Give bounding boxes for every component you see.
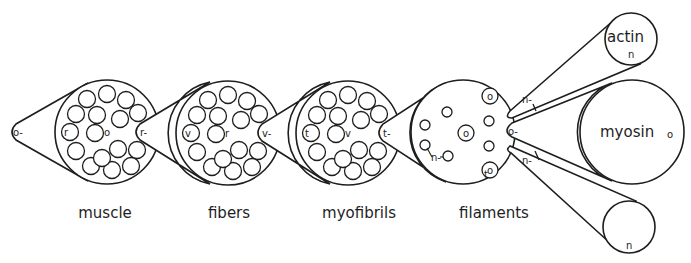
actin-sub-label: n <box>628 49 634 60</box>
thin-filament <box>442 107 452 117</box>
sub-bundle-circle <box>189 107 206 124</box>
thin-filament <box>443 151 453 161</box>
thick-filament-label: o <box>487 91 493 102</box>
sub-bundle-circle <box>309 144 326 161</box>
captions: muscle fibers myofibrils filaments <box>78 204 529 222</box>
sub-bundle-circle <box>359 93 376 110</box>
sub-bundle-circle <box>239 93 256 110</box>
lower-filament-sub-label: n <box>626 240 632 251</box>
sub-bundle-circle <box>371 106 388 123</box>
filaments-edge-label: t <box>484 169 488 180</box>
sub-bundle-circle <box>89 107 106 124</box>
actin-cross-section: actin n <box>605 13 657 65</box>
sub-bundle-circle <box>200 92 217 109</box>
actin-label: actin <box>607 28 644 46</box>
myofibrils-center-label: v <box>345 128 351 139</box>
sub-bundle-circle <box>79 91 96 108</box>
sub-bundle-circle <box>370 143 387 160</box>
sub-bundle-circle <box>87 125 104 142</box>
thin-filament-label: n- <box>431 152 441 163</box>
sub-bundle-circle <box>251 106 268 123</box>
sub-bundle-circle <box>328 126 345 143</box>
sub-bundle-circle <box>99 86 116 103</box>
lower-filament-cross-section: n <box>603 201 655 253</box>
sub-bundle-circle <box>68 106 85 123</box>
caption-fibers: fibers <box>208 204 250 222</box>
sub-bundle-circle <box>118 92 135 109</box>
sub-bundle-circle <box>189 144 206 161</box>
sub-bundle-circle <box>210 108 227 125</box>
sub-bundle-circle <box>112 111 129 128</box>
caption-myofibrils: myofibrils <box>322 204 396 222</box>
sub-bundle-circle <box>340 87 357 104</box>
thin-rod-label-lower: n- <box>522 155 532 166</box>
muscle-outgoing-label: r- <box>140 127 147 138</box>
sub-bundle-circle <box>309 107 326 124</box>
thick-cone-label: o- <box>508 126 518 137</box>
myosin-sub-label: o <box>667 129 673 140</box>
filaments-cross-section: o o o n- t <box>411 80 515 184</box>
thin-rod-label-upper: n- <box>522 94 532 105</box>
sub-bundle-circle <box>231 142 248 159</box>
myosin-cross-section: myosin o <box>580 80 684 184</box>
myofibrils-edge-label: t <box>305 128 309 139</box>
sub-bundle-circle <box>215 151 232 168</box>
caption-filaments: filaments <box>459 204 529 222</box>
sub-bundle-circle <box>220 87 237 104</box>
thin-filament <box>420 140 430 150</box>
sub-bundle-circle <box>94 150 111 167</box>
myosin-label: myosin <box>600 123 654 141</box>
sub-bundle-circle <box>208 126 225 143</box>
sub-bundle-circle <box>364 159 381 176</box>
muscle-hierarchy-diagram: o- o r r- r v v- v t t- <box>0 0 691 263</box>
sub-bundle-circle <box>335 151 352 168</box>
fibers-edge-label: v <box>185 128 191 139</box>
myofibrils-outgoing-label: t- <box>383 128 391 139</box>
sub-bundle-circle <box>123 158 140 175</box>
thin-filament <box>484 141 494 151</box>
thin-filament <box>484 116 494 126</box>
caption-muscle: muscle <box>78 204 132 222</box>
sub-bundle-circle <box>351 142 368 159</box>
sub-bundle-circle <box>110 141 127 158</box>
sub-bundle-circle <box>129 142 146 159</box>
sub-bundle-circle <box>250 143 267 160</box>
sub-bundle-circle <box>68 143 85 160</box>
fibers-outgoing-label: v- <box>262 128 272 139</box>
sub-bundle-circle <box>353 112 370 129</box>
sub-bundle-circle <box>320 92 337 109</box>
muscle-incoming-label: o- <box>13 127 23 138</box>
sub-bundle-circle <box>233 112 250 129</box>
muscle-center-label: o <box>104 127 110 138</box>
thick-filament-label: o <box>463 128 469 139</box>
sub-bundle-circle <box>130 105 147 122</box>
sub-bundle-circle <box>244 159 261 176</box>
sub-bundle-circle <box>330 108 347 125</box>
thin-filament <box>420 120 430 130</box>
